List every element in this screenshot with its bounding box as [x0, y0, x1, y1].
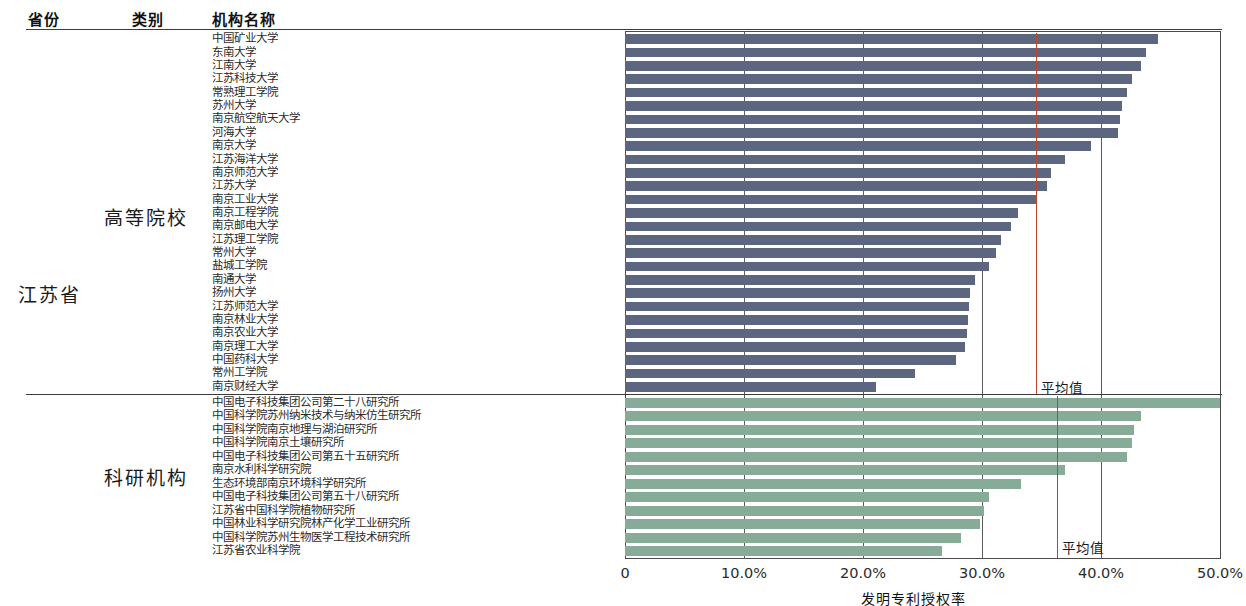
column-header-institution: 机构名称 — [212, 8, 276, 29]
x-tick-label: 50.0% — [1197, 565, 1243, 581]
institution-name: 江苏省中国科学院植物研究所 — [212, 505, 355, 517]
group-divider — [26, 394, 1222, 395]
category-label-research: 科研机构 — [104, 463, 188, 490]
plot-bottom-axis — [625, 558, 1221, 559]
institution-name: 南京农业大学 — [212, 327, 278, 339]
bar — [625, 288, 970, 298]
plot-top-border — [625, 31, 1221, 32]
institution-name: 盐城工学院 — [212, 260, 267, 272]
bar — [625, 355, 956, 365]
institution-name: 中国科学院苏州生物医学工程技术研究所 — [212, 532, 410, 544]
bar — [625, 533, 961, 543]
bar — [625, 546, 942, 556]
bar — [625, 398, 1220, 408]
bar — [625, 452, 1127, 462]
institution-name: 南京财经大学 — [212, 381, 278, 393]
bar — [625, 369, 915, 379]
average-label: 平均值 — [1062, 537, 1104, 557]
institution-name: 南京工程学院 — [212, 207, 278, 219]
institution-name: 南通大学 — [212, 274, 256, 286]
average-line — [1036, 33, 1037, 394]
institution-name: 中国电子科技集团公司第五十五研究所 — [212, 451, 399, 463]
bar — [625, 61, 1141, 71]
bar — [625, 88, 1127, 98]
institution-name: 常州工学院 — [212, 367, 267, 379]
bar — [625, 48, 1146, 58]
bar — [625, 262, 989, 272]
bar — [625, 101, 1122, 111]
institution-name: 南京工业大学 — [212, 194, 278, 206]
bar — [625, 141, 1091, 151]
institution-name: 江南大学 — [212, 60, 256, 72]
bar — [625, 382, 876, 392]
bar — [625, 492, 989, 502]
x-tick-label: 10.0% — [721, 565, 767, 581]
bar — [625, 465, 1065, 475]
header-rule — [26, 29, 1222, 30]
bar — [625, 115, 1120, 125]
bar — [625, 506, 984, 516]
institution-name: 苏州大学 — [212, 100, 256, 112]
bar — [625, 128, 1118, 138]
category-label-university: 高等院校 — [104, 203, 188, 230]
x-axis-title: 发明专利授权率 — [0, 588, 1246, 606]
institution-name: 常熟理工学院 — [212, 87, 278, 99]
institution-name: 生态环境部南京环境科学研究所 — [212, 478, 366, 490]
institution-name: 中国林业科学研究院林产化学工业研究所 — [212, 518, 410, 530]
institution-name: 南京大学 — [212, 140, 256, 152]
institution-name: 中国科学院南京土壤研究所 — [212, 437, 344, 449]
bar — [625, 315, 968, 325]
institution-name: 江苏海洋大学 — [212, 154, 278, 166]
plot-right-border — [1220, 31, 1221, 559]
bar — [625, 248, 996, 258]
institution-name: 中国电子科技集团公司第二十八研究所 — [212, 397, 399, 409]
institution-name: 常州大学 — [212, 247, 256, 259]
bar — [625, 329, 967, 339]
institution-name: 中国电子科技集团公司第五十八研究所 — [212, 491, 399, 503]
bar — [625, 235, 1001, 245]
x-tick-label: 20.0% — [840, 565, 886, 581]
x-axis-title-text: 发明专利授权率 — [861, 591, 966, 606]
province-label: 江苏省 — [18, 280, 81, 307]
bar — [625, 411, 1141, 421]
column-header-province: 省份 — [28, 8, 60, 29]
institution-name: 南京航空航天大学 — [212, 113, 300, 125]
bar — [625, 34, 1158, 44]
bar — [625, 479, 1021, 489]
institution-name: 江苏理工学院 — [212, 234, 278, 246]
bar — [625, 208, 1018, 218]
institution-name: 江苏大学 — [212, 180, 256, 192]
institution-name: 南京师范大学 — [212, 167, 278, 179]
bar — [625, 155, 1065, 165]
institution-name: 中国矿业大学 — [212, 33, 278, 45]
bar — [625, 275, 975, 285]
institution-name: 中国科学院南京地理与湖泊研究所 — [212, 424, 377, 436]
institution-name: 江苏师范大学 — [212, 301, 278, 313]
bar — [625, 74, 1132, 84]
bar — [625, 168, 1051, 178]
institution-name: 南京理工大学 — [212, 341, 278, 353]
bar — [625, 438, 1132, 448]
average-line — [1057, 396, 1058, 558]
institution-name: 河海大学 — [212, 127, 256, 139]
x-tick-label: 40.0% — [1078, 565, 1124, 581]
bar — [625, 222, 1011, 232]
institution-name: 中国科学院苏州纳米技术与纳米仿生研究所 — [212, 410, 421, 422]
institution-name: 江苏科技大学 — [212, 73, 278, 85]
institution-name: 扬州大学 — [212, 287, 256, 299]
x-tick-label: 0 — [620, 565, 629, 581]
institution-name: 南京邮电大学 — [212, 220, 278, 232]
institution-name: 中国药科大学 — [212, 354, 278, 366]
column-header-category: 类别 — [132, 8, 164, 29]
bar — [625, 302, 969, 312]
chart-root: 省份 类别 机构名称 江苏省 高等院校 科研机构 中国矿业大学东南大学江南大学江… — [0, 0, 1246, 606]
bar — [625, 181, 1047, 191]
institution-name: 南京水利科学研究院 — [212, 464, 311, 476]
bar — [625, 342, 965, 352]
bar — [625, 519, 980, 529]
institution-name: 东南大学 — [212, 47, 256, 59]
institution-name: 南京林业大学 — [212, 314, 278, 326]
x-tick-label: 30.0% — [959, 565, 1005, 581]
bar — [625, 195, 1037, 205]
institution-name: 江苏省农业科学院 — [212, 545, 300, 557]
